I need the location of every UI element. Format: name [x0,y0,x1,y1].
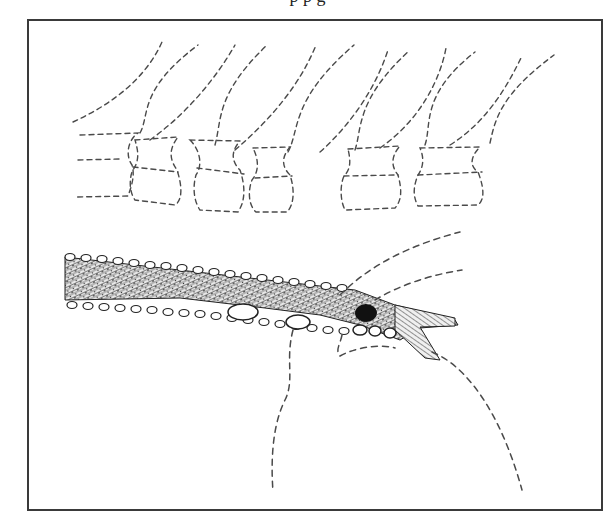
lower-mass-outline [272,232,522,492]
vertebrae [75,133,483,212]
anatomical-diagram [0,0,615,519]
dark-lesion [355,304,377,322]
spinous-processes [73,42,554,152]
